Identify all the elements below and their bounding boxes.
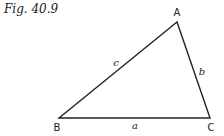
side-label-b: b [199, 66, 205, 77]
vertex-label-b: B [54, 122, 61, 133]
triangle-diagram: A B C a b c [0, 0, 224, 136]
side-label-c: c [113, 57, 119, 68]
side-label-a: a [132, 120, 138, 131]
vertex-label-a: A [174, 7, 181, 18]
triangle-abc [59, 22, 210, 118]
vertex-label-c: C [208, 122, 215, 133]
